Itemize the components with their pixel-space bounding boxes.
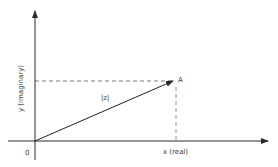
argand-diagram bbox=[0, 0, 278, 167]
x-axis-label: x (real) bbox=[163, 149, 188, 156]
vector-magnitude-label: |z| bbox=[101, 95, 109, 102]
origin-label: 0 bbox=[25, 150, 29, 157]
y-axis-label: y (imaginary) bbox=[18, 65, 25, 112]
vector-z bbox=[35, 81, 173, 141]
point-a-label: A bbox=[178, 77, 183, 84]
